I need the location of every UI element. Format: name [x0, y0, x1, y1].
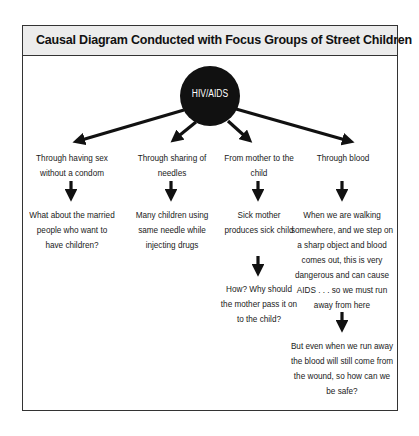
- cause-through-blood: Through blood: [308, 150, 379, 165]
- hub-label: HIV/AIDS: [185, 88, 236, 99]
- arrow-to-col3-icon: [228, 121, 248, 139]
- effect-married-people: What about the married people who want t…: [27, 207, 116, 252]
- cause-sex-without-condom: Through having sex without a condom: [32, 150, 111, 180]
- effect-sick-mother: Sick mother produces sick child: [220, 207, 297, 237]
- arrow-to-col2-icon: [175, 122, 196, 139]
- cause-sharing-needles: Through sharing of needles: [136, 150, 208, 180]
- effect-how-can-we-be-safe: But even when we run away the blood will…: [290, 338, 393, 398]
- arrow-to-col4-icon: [236, 109, 349, 141]
- effect-same-needle: Many children using same needle while in…: [127, 207, 216, 252]
- cause-mother-to-child: From mother to the child: [220, 150, 297, 180]
- effect-why-mother: How? Why should the mother pass it on to…: [220, 281, 297, 326]
- arrow-to-col1-icon: [78, 110, 184, 141]
- effect-sharp-object: When we are walking somewhere, and we st…: [289, 207, 396, 312]
